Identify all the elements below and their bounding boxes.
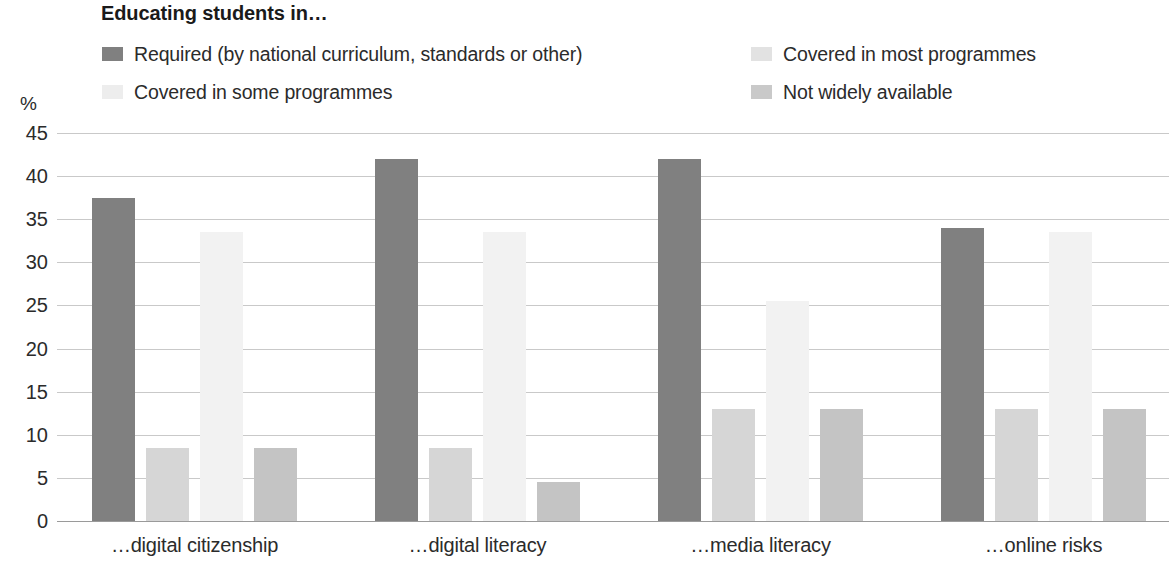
x-axis-category-label: …media literacy: [601, 534, 921, 557]
bar: [537, 482, 580, 521]
bar: [146, 448, 189, 521]
gridline: [57, 176, 1169, 177]
bar: [92, 198, 135, 521]
bar: [712, 409, 755, 521]
bar: [1049, 232, 1092, 521]
bar: [1103, 409, 1146, 521]
plot-canvas: [57, 133, 1169, 521]
bar: [429, 448, 472, 521]
bar: [200, 232, 243, 521]
bar: [941, 228, 984, 521]
bar: [375, 159, 418, 521]
bar: [254, 448, 297, 521]
bar: [766, 301, 809, 521]
gridline: [57, 133, 1169, 134]
bar: [658, 159, 701, 521]
bar: [820, 409, 863, 521]
gridline: [57, 219, 1169, 220]
x-axis-category-label: …digital citizenship: [35, 534, 355, 557]
x-axis-baseline: [57, 521, 1169, 522]
bar: [483, 232, 526, 521]
plot-area: [0, 0, 1169, 564]
x-axis-category-label: …online risks: [884, 534, 1169, 557]
x-axis-category-label: …digital literacy: [318, 534, 638, 557]
bar: [995, 409, 1038, 521]
